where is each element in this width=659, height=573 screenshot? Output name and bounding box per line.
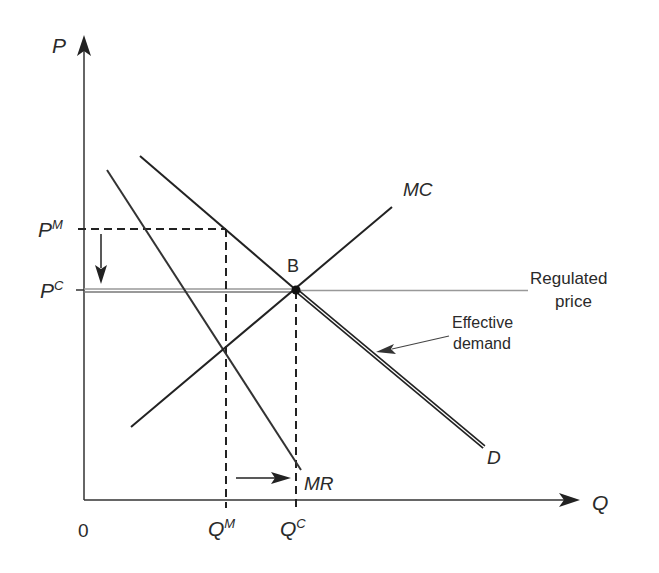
price-down-arrow-icon: [95, 234, 107, 284]
y-axis-label: P: [52, 34, 66, 57]
equilibrium-point-b: [292, 286, 301, 295]
quantity-right-arrow-icon: [236, 472, 291, 484]
mc-label: MC: [403, 179, 433, 200]
effective-demand-pointer-icon: [376, 336, 449, 354]
demand-label: D: [487, 447, 501, 468]
x-axis-label: Q: [592, 491, 608, 514]
y-axis: [77, 35, 91, 500]
effective-demand-label-line1: Effective: [452, 314, 513, 331]
point-b-label: B: [287, 256, 299, 276]
regulated-price-line: [84, 289, 528, 292]
price-regulation-diagram: P Q 0 B PM PC QM QC MC: [0, 0, 659, 573]
qm-label: QM: [208, 516, 235, 540]
pm-label: PM: [38, 217, 63, 241]
mc-curve: [131, 207, 392, 427]
regulated-price-label-line1: Regulated: [530, 269, 608, 288]
mr-label: MR: [304, 473, 334, 494]
pc-label: PC: [40, 278, 64, 302]
origin-label: 0: [78, 520, 89, 541]
effective-demand-label-line2: demand: [453, 335, 511, 352]
qc-label: QC: [280, 516, 306, 540]
mr-curve: [107, 170, 301, 470]
x-axis: [84, 493, 580, 507]
demand-curve: [140, 156, 296, 290]
regulated-price-label-line2: price: [555, 292, 592, 311]
